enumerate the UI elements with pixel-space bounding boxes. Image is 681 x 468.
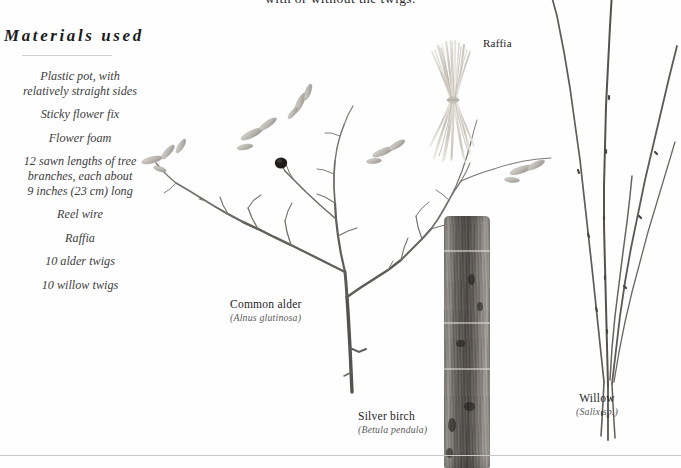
materials-panel: Materials used Plastic pot, with relativ… [0, 26, 165, 302]
birch-log-band [444, 250, 490, 252]
alder-long-right-twig [511, 158, 551, 164]
alder-cone [275, 157, 287, 168]
alder-catkins [141, 83, 546, 183]
birch-log-scar [464, 402, 475, 411]
birch-log-band [444, 322, 490, 324]
materials-item: Plastic pot, with relatively straight si… [0, 69, 160, 98]
birch-log-band [444, 368, 490, 370]
willow-specimen [551, 0, 677, 440]
materials-item: 10 willow twigs [0, 278, 160, 293]
caption-common-name: Common alder [230, 297, 302, 311]
birch-log-scar [456, 340, 465, 347]
caption-latin-name: (Betula pendula) [358, 423, 427, 436]
materials-item: Reel wire [0, 207, 160, 222]
silver-birch-log [444, 216, 490, 468]
caption-silver-birch: Silver birch (Betula pendula) [358, 409, 427, 436]
birch-log-scar [477, 302, 483, 311]
birch-log-scar [448, 418, 456, 432]
page-canvas: with or without the twigs. [0, 0, 681, 468]
caption-willow: Willow (Salix sp.) [576, 391, 618, 418]
caption-latin-name: (Salix sp.) [576, 405, 618, 418]
materials-heading: Materials used [0, 26, 165, 46]
caption-common-name: Raffia [483, 36, 512, 50]
caption-latin-name: (Alnus glutinosa) [230, 311, 302, 324]
birch-log-scar [446, 448, 453, 458]
materials-divider [22, 55, 112, 56]
running-text: with or without the twigs. [0, 0, 681, 7]
caption-common-name: Silver birch [358, 409, 427, 423]
materials-item: Flower foam [0, 131, 160, 146]
birch-log-scar [468, 274, 475, 285]
page-bottom-rule [0, 455, 681, 456]
materials-item: 10 alder twigs [0, 254, 160, 269]
materials-item: Raffia [0, 231, 160, 246]
caption-common-alder: Common alder (Alnus glutinosa) [230, 297, 302, 324]
caption-common-name: Willow [576, 391, 618, 405]
materials-item: Sticky flower fix [0, 107, 160, 122]
raffia-bundle [430, 40, 474, 162]
materials-item: 12 sawn lengths of tree branches, each a… [0, 154, 160, 198]
caption-raffia: Raffia [483, 36, 512, 50]
materials-list: Plastic pot, with relatively straight si… [0, 69, 160, 293]
